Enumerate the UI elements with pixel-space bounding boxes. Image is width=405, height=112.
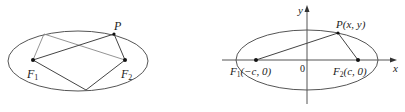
right-label-p: P(x, y) xyxy=(335,18,366,31)
right-label-f2: F2(c, 0) xyxy=(332,65,367,79)
right-label-f1: F1(−c, 0) xyxy=(229,65,271,79)
right-focus-f1 xyxy=(254,58,258,62)
left-focus-f1 xyxy=(31,58,35,62)
left-label-p: P xyxy=(113,19,122,33)
left-figure: P F1 F2 xyxy=(8,19,148,91)
left-line-p-f1 xyxy=(33,34,114,60)
left-ellipse xyxy=(8,31,148,91)
right-point-p xyxy=(336,31,339,34)
left-label-f2: F2 xyxy=(120,67,132,82)
ellipse-diagrams: P F1 F2 y x 0 P(x, y) F1(−c, 0) F2(c, 0) xyxy=(0,0,405,112)
y-axis-arrow-icon xyxy=(305,5,310,12)
left-line-q-f2 xyxy=(44,34,125,60)
x-axis-label: x xyxy=(392,62,398,74)
right-focus-f2 xyxy=(356,58,360,62)
right-line-p-f2 xyxy=(338,33,358,60)
left-label-f1: F1 xyxy=(26,67,38,82)
left-focus-f2 xyxy=(123,58,127,62)
origin-label: 0 xyxy=(300,63,305,74)
left-line-r-f1 xyxy=(33,60,86,90)
y-axis-label: y xyxy=(297,4,303,16)
right-line-p-f1 xyxy=(256,33,338,60)
right-figure: y x 0 P(x, y) F1(−c, 0) F2(c, 0) xyxy=(222,4,398,104)
